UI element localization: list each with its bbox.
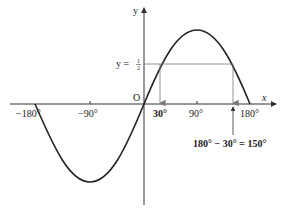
tick-label-neg90: −90° (78, 108, 98, 119)
y-axis-label: y (133, 5, 138, 16)
tick-label-90: 90° (189, 108, 203, 119)
half-numerator: 1 (137, 58, 140, 64)
half-level-label: y = (116, 58, 130, 69)
half-denominator: 2 (137, 65, 140, 71)
solution-150-label: 180° − 30° = 150° (193, 138, 266, 149)
sine-graph: y x O y = 1 2 −180° −90° 90° 180° 30° 18… (0, 0, 286, 211)
tick-label-180: 180° (240, 108, 259, 119)
solution-30-label: 30° (153, 108, 167, 119)
tick-label-neg180: −180° (16, 108, 41, 119)
sine-curve (35, 30, 250, 182)
origin-label: O (133, 92, 140, 103)
x-axis-label: x (261, 92, 267, 103)
